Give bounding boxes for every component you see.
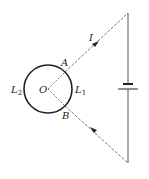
label-l2: L2 [10,84,22,97]
label-current: I [88,32,94,43]
label-b: B [61,110,69,121]
radius-ob [48,89,65,106]
label-a: A [60,57,68,68]
label-l1: L1 [74,84,86,97]
circuit-diagram: I A B O L2 L1 [0,0,149,179]
current-arrow-bottom-icon [90,127,97,133]
wire-bottom [65,106,128,163]
label-o: O [39,84,47,95]
radius-oa [48,72,65,89]
